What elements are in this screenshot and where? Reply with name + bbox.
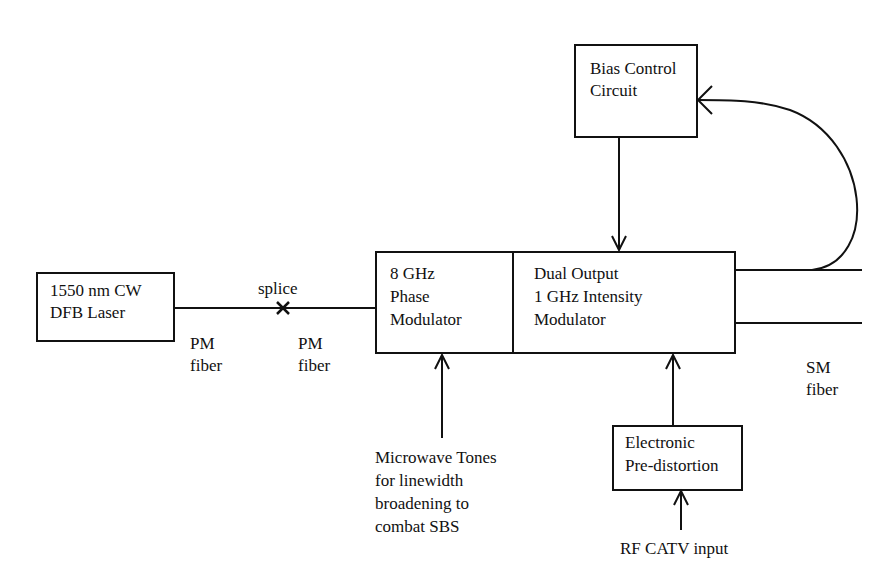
bias-control-line2: Circuit: [590, 80, 637, 102]
laser-label-line2: DFB Laser: [50, 302, 125, 324]
pm-fiber-label-2-line1: PM: [298, 333, 323, 355]
bias-control-line1: Bias Control: [590, 58, 676, 80]
microwave-label-line2: for linewidth: [375, 470, 463, 492]
predistortion-line1: Electronic: [625, 432, 695, 454]
phase-modulator-line1: 8 GHz: [390, 263, 435, 285]
intensity-modulator-line1: Dual Output: [534, 263, 619, 285]
phase-modulator-line2: Phase: [390, 286, 430, 308]
predistortion-line2: Pre-distortion: [625, 455, 719, 477]
splice-label: splice: [258, 278, 298, 300]
phase-modulator-line3: Modulator: [390, 309, 462, 331]
microwave-label-line3: broadening to: [375, 493, 469, 515]
intensity-modulator-line2: 1 GHz Intensity: [534, 286, 643, 308]
rf-input-label: RF CATV input: [620, 538, 728, 560]
intensity-modulator-line3: Modulator: [534, 309, 606, 331]
microwave-label-line1: Microwave Tones: [375, 447, 497, 469]
pm-fiber-label-1-line1: PM: [190, 333, 215, 355]
sm-fiber-label-line2: fiber: [806, 379, 838, 401]
feedback-loop-line: [698, 100, 857, 270]
pm-fiber-label-1-line2: fiber: [190, 355, 222, 377]
pm-fiber-label-2-line2: fiber: [298, 355, 330, 377]
laser-label-line1: 1550 nm CW: [50, 280, 142, 302]
sm-fiber-label-line1: SM: [806, 357, 831, 379]
microwave-label-line4: combat SBS: [375, 516, 460, 538]
